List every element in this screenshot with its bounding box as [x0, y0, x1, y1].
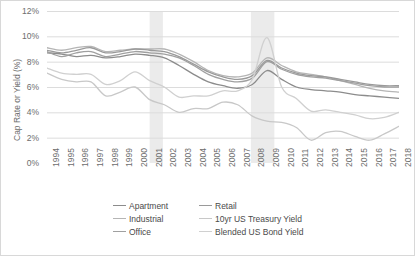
- chart-svg: [47, 11, 399, 163]
- x-axis-tick-label: 2017: [388, 148, 398, 167]
- legend-item[interactable]: Retail: [199, 199, 383, 212]
- y-axis-tick-label: 0%: [5, 159, 39, 167]
- x-axis-tick-label: 2015: [359, 148, 369, 167]
- series-lines-group: [47, 38, 399, 141]
- y-axis-tick-label: 12%: [5, 7, 39, 15]
- x-axis-tick-label: 2012: [315, 148, 325, 167]
- legend-color-swatch: [199, 231, 212, 232]
- x-axis-tick-label: 2002: [168, 148, 178, 167]
- legend-color-swatch: [199, 218, 212, 219]
- legend-label: Retail: [215, 201, 237, 211]
- x-axis-tick-label: 2018: [403, 148, 413, 167]
- y-axis-tick-label: 8%: [5, 58, 39, 66]
- gridlines-group: [47, 12, 399, 164]
- x-axis-tick-label: 2004: [198, 148, 208, 167]
- legend-label: Industrial: [129, 214, 164, 224]
- y-axis-title-text: Cap Rate or Yield (%): [12, 41, 22, 141]
- x-axis-tick-label: 1995: [66, 148, 76, 167]
- x-axis-tick-label: 2006: [227, 148, 237, 167]
- legend-label: 10yr US Treasury Yield: [215, 214, 302, 224]
- x-axis-tick-label: 2014: [344, 148, 354, 167]
- legend-item[interactable]: Blended US Bond Yield: [199, 225, 383, 238]
- x-axis-tick-label: 1994: [51, 148, 61, 167]
- plot-area: [47, 11, 399, 163]
- series-line: [47, 73, 399, 140]
- x-axis-tick-label: 2011: [300, 149, 310, 167]
- x-axis-tick-label: 1996: [80, 148, 90, 167]
- y-axis-tick-label: 10%: [5, 32, 39, 40]
- chart-legend: ApartmentRetailIndustrial10yr US Treasur…: [113, 199, 383, 238]
- x-axis-tick-label: 2007: [242, 148, 252, 167]
- legend-color-swatch: [199, 205, 212, 206]
- legend-item[interactable]: Office: [113, 225, 199, 238]
- x-axis-tick-label: 2013: [330, 148, 340, 167]
- x-axis-tick-label: 1998: [110, 148, 120, 167]
- legend-item[interactable]: Industrial: [113, 212, 199, 225]
- y-axis-tick-label: 6%: [5, 83, 39, 91]
- chart-container: Cap Rate or Yield (%) 0%2%4%6%8%10%12% 1…: [0, 0, 415, 256]
- x-axis-tick-label: 2000: [139, 148, 149, 167]
- x-axis-tick-label: 2008: [256, 148, 266, 167]
- legend-label: Apartment: [129, 201, 168, 211]
- legend-label: Office: [129, 227, 151, 237]
- x-axis-tick-label: 2001: [154, 148, 164, 167]
- x-axis-tick-label: 1997: [95, 148, 105, 167]
- legend-item[interactable]: Apartment: [113, 199, 199, 212]
- legend-color-swatch: [113, 205, 126, 206]
- x-axis-tick-label: 2003: [183, 148, 193, 167]
- x-axis-tick-label: 2010: [286, 148, 296, 167]
- x-axis-tick-label: 2005: [212, 148, 222, 167]
- legend-item[interactable]: 10yr US Treasury Yield: [199, 212, 383, 225]
- x-axis-tick-label: 2009: [271, 148, 281, 167]
- x-axis-tick-label: 1999: [124, 148, 134, 167]
- legend-color-swatch: [113, 231, 126, 232]
- legend-label: Blended US Bond Yield: [215, 227, 303, 237]
- legend-color-swatch: [113, 218, 126, 219]
- y-axis-tick-label: 2%: [5, 134, 39, 142]
- y-axis-tick-label: 4%: [5, 108, 39, 116]
- x-axis-tick-label: 2016: [374, 148, 384, 167]
